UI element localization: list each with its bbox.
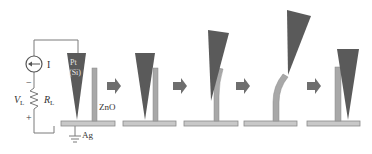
zno-label: ZnO xyxy=(99,102,116,112)
piezo-nanowire-diagram: I − + VL RL Pt (Si) ZnO Ag xyxy=(0,0,372,154)
tip-label-pt: Pt xyxy=(70,58,77,67)
current-label: I xyxy=(47,59,50,70)
zno-nanowire xyxy=(92,68,97,121)
plus-sign: + xyxy=(26,112,32,123)
resistor-label: RL xyxy=(43,94,54,107)
minus-sign: − xyxy=(26,77,32,88)
panel-4 xyxy=(244,10,311,126)
arrow-right-icon xyxy=(236,78,250,94)
current-source-icon xyxy=(26,56,42,72)
tip-label-si: (Si) xyxy=(69,68,81,77)
circuit-wire-bottom xyxy=(34,109,54,133)
ag-substrate xyxy=(61,121,115,126)
ag-label: Ag xyxy=(82,130,93,140)
arrow-right-icon xyxy=(307,78,321,94)
resistor-icon xyxy=(30,88,38,109)
voltage-label: VL xyxy=(14,94,24,107)
panel-3 xyxy=(184,30,238,126)
panel-2 xyxy=(123,53,176,126)
panel-1: Pt (Si) ZnO Ag xyxy=(61,53,116,140)
arrow-right-icon xyxy=(107,78,121,94)
arrow-right-icon xyxy=(173,78,187,94)
